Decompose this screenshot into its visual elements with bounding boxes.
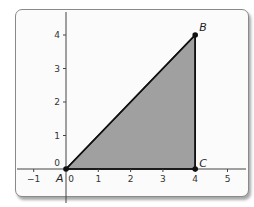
x-tick-label: 4 [192,174,198,184]
x-tick-label: 2 [128,174,134,184]
vertex-point-c [192,166,198,172]
y-tick-label: 3 [54,64,60,74]
y-tick-label: 2 [54,97,60,107]
x-tick-label: 5 [225,174,231,184]
x-tick-label: −1 [27,174,40,184]
x-tick-label: 3 [160,174,166,184]
x-tick-label: 1 [95,174,101,184]
vertex-label-b: B [199,21,207,34]
y-tick-label: 1 [54,131,60,141]
vertex-label-a: A [55,172,64,185]
x-tick-label: 0 [68,174,74,184]
coordinate-plane: −101234501234ABC [0,0,254,207]
vertex-label-c: C [199,157,207,170]
vertex-point-a [63,166,69,172]
y-tick-label: 4 [54,30,60,40]
y-tick-label: 0 [54,158,60,168]
vertex-point-b [192,32,198,38]
